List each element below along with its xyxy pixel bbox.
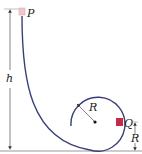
q-height-label: R	[130, 132, 139, 145]
point-p-label: P	[26, 7, 35, 20]
block-p	[19, 8, 25, 15]
height-label: h	[6, 72, 13, 85]
block-q	[116, 118, 123, 126]
radius-label: R	[88, 101, 97, 114]
track-curve	[22, 16, 125, 151]
point-q-label: Q	[124, 117, 133, 130]
height-dimension: h	[4, 9, 20, 148]
loop-track-diagram: h P R Q R	[0, 0, 142, 154]
